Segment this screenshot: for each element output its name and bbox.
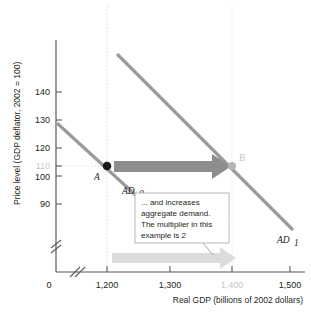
y-tick-label-110: 110 <box>36 161 50 171</box>
x-axis-title: Real GDP (billions of 2002 dollars) <box>173 295 303 305</box>
point-b-label: B <box>239 153 245 163</box>
note-line-1: ... and increases <box>141 198 200 207</box>
note-line-3: The multiplier in this <box>141 220 212 229</box>
y-axis-title: Price level (GDP deflator, 2002 = 100) <box>12 62 22 205</box>
point-a-label: A <box>93 172 100 182</box>
y-tick-label-90: 90 <box>40 199 50 209</box>
point-b-marker <box>228 162 236 170</box>
shift-arrow <box>114 154 231 179</box>
x-tick-label-1200: 1,200 <box>96 280 119 290</box>
y-tick-label-120: 120 <box>35 143 50 153</box>
chart-svg: 140 130 120 110 100 90 0 1,200 1,300 1,4… <box>0 0 311 314</box>
x-tick-marks <box>107 266 290 272</box>
note-line-2: aggregate demand. <box>141 209 210 218</box>
y-tick-marks <box>56 92 62 204</box>
x-tick-label-1400: 1,400 <box>221 280 244 290</box>
curve-ad1-label-sub: 1 <box>294 238 299 248</box>
curve-ad0-label-text: AD <box>121 186 135 196</box>
point-a-marker <box>103 162 112 171</box>
y-tick-label-140: 140 <box>35 87 50 97</box>
spending-arrow <box>112 247 236 269</box>
x-tick-label-1500: 1,500 <box>279 280 302 290</box>
y-tick-label-100: 100 <box>35 172 50 182</box>
x-tick-label-0: 0 <box>46 280 51 290</box>
y-tick-label-130: 130 <box>35 115 50 125</box>
x-tick-label-1300: 1,300 <box>159 280 182 290</box>
chart-figure: 140 130 120 110 100 90 0 1,200 1,300 1,4… <box>0 0 311 314</box>
curve-ad1-label: AD 1 <box>276 235 299 248</box>
note-line-4: example is 2 <box>141 231 186 240</box>
curve-ad1-label-text: AD <box>276 235 290 245</box>
